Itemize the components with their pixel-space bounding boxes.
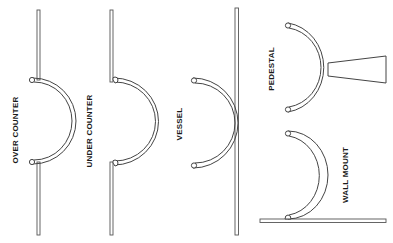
label-vessel: VESSEL	[175, 108, 184, 141]
bowl-inner-edge	[289, 28, 321, 107]
counter-rail-top	[37, 10, 40, 80]
bowl-inner-edge	[115, 82, 156, 161]
bowl-rim-bottom	[191, 163, 196, 168]
label-under-counter: UNDER COUNTER	[85, 95, 94, 168]
bowl-rim-top	[113, 77, 118, 83]
bowl-outer-edge	[288, 131, 328, 219]
counter-rail-bottom	[110, 162, 113, 235]
bowl-rim-top	[285, 131, 290, 136]
counter-rail-top	[110, 10, 113, 82]
over-counter-figure: OVER COUNTER	[11, 10, 76, 235]
bowl-rim-top	[29, 77, 34, 82]
label-over-counter: OVER COUNTER	[11, 97, 20, 164]
bowl-rim-top	[285, 23, 290, 28]
vessel-figure: VESSEL	[175, 8, 239, 235]
bowl-rim-bottom	[29, 159, 34, 164]
wall-rail	[260, 219, 386, 223]
label-pedestal: PEDESTAL	[267, 47, 276, 91]
pedestal-figure: PEDESTAL	[267, 23, 386, 112]
bowl-rim-bottom	[285, 215, 291, 219]
counter-rail-bottom	[37, 162, 40, 235]
bowl-outer-edge	[114, 78, 159, 165]
bowl-outer-edge	[288, 23, 324, 112]
bowl-inner-edge	[289, 136, 319, 215]
bowl-rim-top	[191, 78, 196, 83]
bowl-inner-edge	[195, 83, 235, 163]
wall-mount-figure: WALL MOUNT	[260, 131, 386, 223]
pedestal-base	[328, 56, 386, 83]
under-counter-figure: UNDER COUNTER	[85, 10, 159, 235]
bowl-rim-bottom	[113, 160, 118, 166]
sink-types-diagram: OVER COUNTER UNDER COUNTER VESSEL PEDEST…	[0, 0, 393, 243]
bowl-outer-edge	[193, 78, 238, 168]
label-wall-mount: WALL MOUNT	[341, 147, 350, 203]
bowl-outer-edge	[33, 78, 76, 164]
bowl-rim-bottom	[285, 107, 290, 112]
